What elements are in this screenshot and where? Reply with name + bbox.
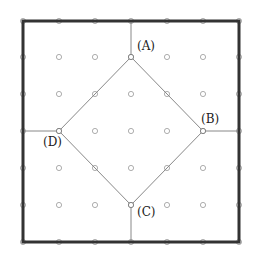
vertex-marker [128, 54, 133, 59]
label-a: (A) [137, 39, 155, 53]
grid-dot [92, 128, 97, 133]
grid-dot [128, 91, 133, 96]
vertex-markers [56, 54, 205, 207]
vertex-marker [128, 202, 133, 207]
grid-dot [56, 91, 61, 96]
grid-dot [164, 128, 169, 133]
grid-dot [56, 165, 61, 170]
grid-dot [92, 202, 97, 207]
grid-dot [200, 91, 205, 96]
grid-dot [92, 54, 97, 59]
label-d: (D) [43, 135, 62, 149]
grid-dot [128, 165, 133, 170]
grid-dot [56, 54, 61, 59]
label-c: (C) [137, 205, 156, 219]
grid-dot [164, 202, 169, 207]
grid-dot [200, 165, 205, 170]
inscribed-square [59, 57, 203, 205]
vertex-marker [56, 128, 61, 133]
grid-dot [128, 128, 133, 133]
diagram-canvas: (A) (B) (C) (D) [0, 0, 257, 253]
grid-dot [164, 54, 169, 59]
grid-dot [200, 54, 205, 59]
label-b: (B) [201, 112, 219, 126]
vertex-marker [200, 128, 205, 133]
grid-dot [56, 202, 61, 207]
grid-dot [200, 202, 205, 207]
